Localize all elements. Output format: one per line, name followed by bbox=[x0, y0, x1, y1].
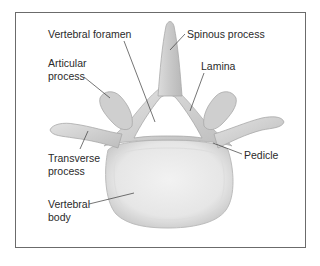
label-articular-process-line2: process bbox=[48, 70, 85, 82]
left-articular-process-shape bbox=[100, 92, 133, 130]
vertebral-body-shape bbox=[106, 140, 233, 228]
leader-articular-process bbox=[84, 77, 110, 98]
label-transverse-process-line2: process bbox=[48, 165, 85, 177]
label-vertebral-foramen: Vertebral foramen bbox=[48, 28, 131, 40]
label-spinous-process: Spinous process bbox=[187, 28, 265, 40]
label-articular-process-line1: Articular bbox=[48, 57, 87, 69]
label-vertebral-body-line2: body bbox=[48, 211, 71, 223]
right-articular-process-shape bbox=[204, 92, 237, 130]
label-transverse-process-line1: Transverse bbox=[48, 152, 100, 164]
label-lamina: Lamina bbox=[201, 60, 235, 72]
leader-lamina bbox=[190, 73, 204, 111]
label-vertebral-body-line1: Vertebral bbox=[48, 198, 90, 210]
spinous-process-shape bbox=[158, 22, 182, 97]
label-pedicle: Pedicle bbox=[244, 149, 278, 161]
